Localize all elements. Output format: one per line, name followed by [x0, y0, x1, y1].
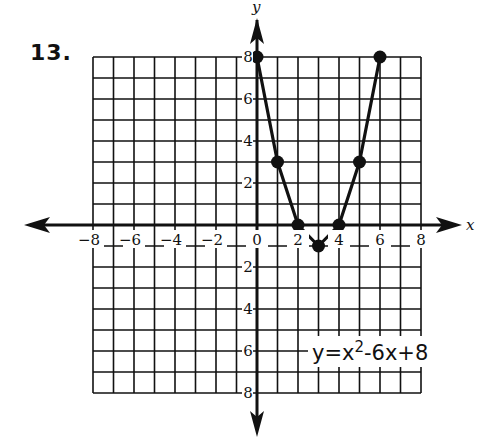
y-tick-label: 2 [243, 174, 253, 192]
y-axis-name: y [251, 0, 261, 16]
y-tick-label: 8 [243, 384, 253, 402]
equation-lhs: y=x [312, 341, 354, 365]
x-tick-label: 4 [334, 231, 344, 249]
x-tick-label: −6 [119, 231, 141, 249]
x-tick-label: −8 [78, 231, 100, 249]
data-point-marker [292, 219, 305, 232]
y-tick-label: 6 [243, 90, 253, 108]
coordinate-plane: xy−8−6−4−20246886422468 [0, 0, 498, 446]
equation-rhs: -6x+8 [364, 341, 428, 365]
y-tick-label: 4 [243, 132, 253, 150]
data-point-marker [271, 156, 284, 169]
x-axis-name: x [466, 216, 475, 234]
axes [24, 18, 462, 437]
data-point-marker [312, 240, 325, 253]
data-point-marker [333, 219, 346, 232]
x-tick-label: 2 [293, 231, 303, 249]
equation-label: y=x2-6x+8 [308, 336, 432, 367]
x-tick-label: 6 [375, 231, 385, 249]
y-tick-label: 2 [243, 258, 253, 276]
data-point-marker [353, 156, 366, 169]
x-tick-label: −2 [201, 231, 223, 249]
y-tick-label: 6 [243, 342, 253, 360]
y-tick-label: 4 [243, 300, 253, 318]
x-tick-label: −4 [160, 231, 182, 249]
x-tick-label: 8 [416, 231, 426, 249]
x-tick-label: 0 [252, 231, 262, 249]
data-point-marker [374, 51, 387, 64]
equation-exponent: 2 [354, 338, 364, 356]
y-tick-label: 8 [243, 48, 253, 66]
